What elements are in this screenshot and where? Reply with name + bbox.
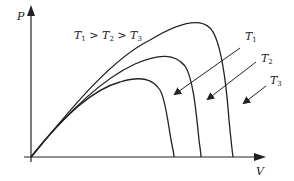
curve-t3 xyxy=(31,79,174,157)
pointer-t2 xyxy=(208,62,256,99)
x-axis-arrow-icon xyxy=(254,153,266,161)
y-axis-label: P xyxy=(16,10,25,23)
x-axis-label: V xyxy=(256,165,265,178)
curve-label-t1: T1 xyxy=(245,30,257,44)
curve-t1 xyxy=(31,23,233,157)
y-axis-arrow-icon xyxy=(27,5,35,16)
temperature-relation: T1 > T2 > T3 xyxy=(74,29,142,43)
pointer-t3 xyxy=(244,86,266,103)
pointer-t1 xyxy=(175,48,240,94)
curve-label-t2: T2 xyxy=(261,52,273,66)
curve-label-t3: T3 xyxy=(270,74,282,88)
curve-t2 xyxy=(31,56,201,157)
pv-temperature-diagram: P V T1 > T2 > T3 T1 T2 T3 xyxy=(0,0,294,181)
